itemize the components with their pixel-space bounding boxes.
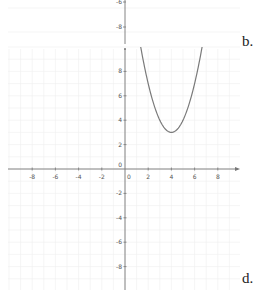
option-label-b: b. <box>242 33 253 50</box>
svg-text:-8: -8 <box>116 263 122 270</box>
svg-text:-6: -6 <box>52 173 58 180</box>
svg-text:8: 8 <box>216 173 220 180</box>
axes <box>8 48 240 290</box>
svg-text:-6: -6 <box>116 0 122 5</box>
svg-text:-6: -6 <box>116 238 122 245</box>
svg-text:4: 4 <box>169 173 173 180</box>
svg-text:2: 2 <box>118 141 122 148</box>
svg-text:2: 2 <box>146 173 150 180</box>
svg-text:0: 0 <box>127 173 131 180</box>
svg-text:6: 6 <box>118 92 122 99</box>
grid-lines <box>8 47 240 290</box>
parabola-graph: -6-8 -8-6-4-202468 86420-2-4-6-8 <box>0 0 264 290</box>
svg-text:-2: -2 <box>116 189 122 196</box>
svg-text:6: 6 <box>193 173 197 180</box>
svg-text:-2: -2 <box>99 173 105 180</box>
svg-text:8: 8 <box>118 67 122 74</box>
svg-text:-4: -4 <box>76 173 82 180</box>
svg-text:-8: -8 <box>116 23 122 30</box>
svg-text:-8: -8 <box>29 173 35 180</box>
svg-text:0: 0 <box>118 161 122 168</box>
residual-axis-above: -6-8 <box>0 0 264 44</box>
option-label-d: d. <box>242 270 253 287</box>
svg-text:4: 4 <box>118 116 122 123</box>
svg-text:-4: -4 <box>116 214 122 221</box>
